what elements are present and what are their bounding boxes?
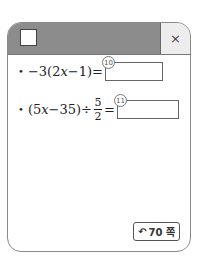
answer-input-10[interactable]: 10: [105, 62, 163, 81]
fraction-denominator: 2: [95, 111, 102, 122]
expression-suffix: −1)=: [68, 64, 103, 79]
problem-number-badge: 10: [102, 56, 115, 69]
answer-input-11[interactable]: 11: [117, 100, 179, 119]
close-button[interactable]: ×: [160, 23, 190, 54]
variable: x: [41, 102, 48, 117]
fraction-numerator: 5: [95, 97, 102, 108]
variable: x: [60, 64, 67, 79]
page-reference-button[interactable]: ↶ 70 쪽: [133, 222, 180, 241]
problem-row-10: • −3(2x−1)= 10: [18, 62, 163, 81]
page-reference-label: 70 쪽: [149, 224, 175, 239]
problem-number-badge: 11: [114, 94, 127, 107]
checkbox-icon[interactable]: [20, 29, 37, 46]
bullet: •: [18, 104, 24, 115]
problem-card: × • −3(2x−1)= 10 • (5x−35)÷ 5 2 = 11 ↶ 7…: [7, 22, 191, 252]
return-arrow-icon: ↶: [138, 226, 146, 237]
card-header: ×: [8, 23, 190, 55]
bullet: •: [18, 66, 24, 77]
problem-row-11: • (5x−35)÷ 5 2 = 11: [18, 97, 179, 122]
fraction: 5 2: [94, 97, 102, 122]
expression-prefix: (5: [28, 102, 41, 117]
expression-mid: −35)÷: [49, 102, 92, 117]
close-icon: ×: [170, 31, 181, 46]
expression-prefix: −3(2: [28, 64, 61, 79]
expression-suffix: =: [104, 102, 115, 117]
